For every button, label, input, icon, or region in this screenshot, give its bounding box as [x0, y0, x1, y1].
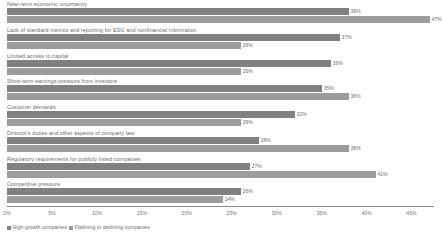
legend-swatch-icon [7, 226, 11, 230]
bar-track: 24% [7, 196, 438, 203]
legend-label: High-growth companies [13, 224, 68, 231]
bar-track: 26% [7, 188, 438, 195]
bar [7, 42, 241, 49]
bar [7, 145, 349, 152]
bar-track: 27% [7, 163, 438, 170]
bar-row: 37% [0, 34, 438, 41]
bar-value-label: 26% [241, 42, 253, 49]
category-label: Competitive pressure [0, 180, 438, 188]
category-label: Limited access to capital [0, 52, 438, 60]
x-axis-tick-label: 35% [316, 209, 326, 217]
x-axis-line [7, 206, 434, 207]
category-label: Regulatory requirements for publicly lis… [0, 155, 438, 163]
legend-label: Flatlining or declining companies [75, 224, 150, 231]
category-label: Near-term economic uncertainty [0, 0, 438, 8]
bar-row: 24% [0, 196, 438, 203]
bar [7, 196, 223, 203]
x-axis-tick-label: 0% [3, 209, 11, 217]
x-axis-tick-label: 10% [92, 209, 102, 217]
bar-track: 36% [7, 60, 438, 67]
bar-track: 28% [7, 137, 438, 144]
bar-row: 26% [0, 119, 438, 126]
bar-value-label: 26% [241, 119, 253, 126]
bar-track: 32% [7, 111, 438, 118]
bar-row: 36% [0, 60, 438, 67]
bar [7, 34, 340, 41]
bar [7, 111, 295, 118]
x-axis-tick-label: 20% [182, 209, 192, 217]
bar-value-label: 26% [241, 188, 253, 195]
legend-item[interactable]: Flatlining or declining companies [69, 224, 150, 231]
bar-track: 38% [7, 8, 438, 15]
bar [7, 137, 259, 144]
x-axis: 0%5%10%15%20%25%30%35%40%45% [0, 206, 438, 220]
x-axis-tick-label: 30% [271, 209, 281, 217]
bar-row: 32% [0, 111, 438, 118]
bar-value-label: 38% [349, 8, 361, 15]
bar-group: Limited access to capital36%26% [0, 52, 438, 78]
bar-row: 27% [0, 163, 438, 170]
bar-value-label: 38% [349, 145, 361, 152]
bar-group: Competitive pressure26%24% [0, 180, 438, 206]
bar [7, 163, 250, 170]
bar-track: 41% [7, 171, 438, 178]
x-axis-tick-label: 45% [406, 209, 416, 217]
chart-legend: High-growth companiesFlatlining or decli… [7, 224, 152, 231]
x-axis-tick-label: 40% [361, 209, 371, 217]
bar-row: 26% [0, 188, 438, 195]
bar-value-label: 28% [259, 137, 271, 144]
bar-track: 38% [7, 93, 438, 100]
bar-group: Short-term earnings pressure from invest… [0, 77, 438, 103]
bar [7, 8, 349, 15]
x-axis-tick-label: 25% [227, 209, 237, 217]
bar [7, 85, 322, 92]
bar-row: 26% [0, 42, 438, 49]
bar-row: 26% [0, 68, 438, 75]
bar-value-label: 47% [430, 16, 442, 23]
bar-row: 38% [0, 8, 438, 15]
bar-track: 47% [7, 16, 438, 23]
category-label: Director's duties and other aspects of c… [0, 129, 438, 137]
bar-value-label: 35% [322, 85, 334, 92]
bar-value-label: 36% [331, 60, 343, 67]
bar [7, 16, 430, 23]
bar-track: 26% [7, 68, 438, 75]
bar-value-label: 27% [250, 163, 262, 170]
category-label: Lack of standard metrics and reporting f… [0, 26, 438, 34]
bar-value-label: 32% [295, 111, 307, 118]
plot-area: Near-term economic uncertainty38%47%Lack… [0, 0, 438, 206]
bar-row: 38% [0, 93, 438, 100]
bar-group: Customer demands32%26% [0, 103, 438, 129]
bar [7, 171, 376, 178]
bar-row: 35% [0, 85, 438, 92]
x-axis-tick-label: 15% [137, 209, 147, 217]
bar-value-label: 37% [340, 34, 352, 41]
bar-group: Regulatory requirements for publicly lis… [0, 155, 438, 181]
bar-group: Director's duties and other aspects of c… [0, 129, 438, 155]
bar-value-label: 26% [241, 68, 253, 75]
bar-row: 41% [0, 171, 438, 178]
bar [7, 188, 241, 195]
bar-value-label: 41% [376, 171, 388, 178]
bar-value-label: 24% [223, 196, 235, 203]
bar-row: 38% [0, 145, 438, 152]
bar-track: 26% [7, 119, 438, 126]
bar [7, 68, 241, 75]
bar-row: 28% [0, 137, 438, 144]
legend-item[interactable]: High-growth companies [7, 224, 67, 231]
bar-track: 38% [7, 145, 438, 152]
bar [7, 93, 349, 100]
bar-track: 35% [7, 85, 438, 92]
bar-group: Lack of standard metrics and reporting f… [0, 26, 438, 52]
x-axis-tick-label: 5% [48, 209, 56, 217]
bar [7, 60, 331, 67]
bar-track: 37% [7, 34, 438, 41]
bar-value-label: 38% [349, 93, 361, 100]
bar [7, 119, 241, 126]
category-label: Customer demands [0, 103, 438, 111]
category-label: Short-term earnings pressure from invest… [0, 77, 438, 85]
bar-group: Near-term economic uncertainty38%47% [0, 0, 438, 26]
bar-row: 47% [0, 16, 438, 23]
legend-swatch-icon [69, 226, 73, 230]
